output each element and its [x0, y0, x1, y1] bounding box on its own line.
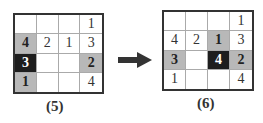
- grid-cell: 1: [59, 34, 81, 53]
- grid-cell: 3: [15, 54, 37, 73]
- panel-label-6: (6): [197, 95, 215, 112]
- grid-cell: [59, 54, 81, 73]
- grid-cell: 4: [208, 51, 230, 70]
- grid-cell: [37, 73, 59, 92]
- grid-cell: 1: [15, 73, 37, 92]
- grid-cell: 1: [80, 15, 102, 34]
- grid-cell: 3: [80, 34, 102, 53]
- grid-cell: 4: [164, 31, 186, 50]
- grid-cell: 2: [230, 51, 252, 70]
- grid-cell: 4: [80, 73, 102, 92]
- grid-cell: 1: [164, 70, 186, 89]
- grid-cell: 1: [230, 12, 252, 31]
- grid-cell: [186, 51, 208, 70]
- grid-cell: [15, 15, 37, 34]
- grid-cell: 3: [230, 31, 252, 50]
- puzzle-grid-6: 1421334214: [162, 10, 254, 91]
- grid-cell: [164, 12, 186, 31]
- puzzle-grid-5: 142133214: [13, 13, 104, 94]
- panel-label-5: (5): [46, 98, 64, 115]
- grid-cell: [208, 12, 230, 31]
- grid-cell: [186, 12, 208, 31]
- grid-cell: [37, 54, 59, 73]
- grid-cell: 4: [230, 70, 252, 89]
- grid-cell: [208, 70, 230, 89]
- grid-cell: [59, 15, 81, 34]
- grid-cell: 1: [208, 31, 230, 50]
- grid-cell: 3: [164, 51, 186, 70]
- grid-cell: [37, 15, 59, 34]
- grid-cell: 2: [37, 34, 59, 53]
- grid-cell: 4: [15, 34, 37, 53]
- right-arrow-icon: [118, 52, 152, 68]
- grid-cell: 2: [186, 31, 208, 50]
- grid-cell: [59, 73, 81, 92]
- grid-cell: [186, 70, 208, 89]
- grid-cell: 2: [80, 54, 102, 73]
